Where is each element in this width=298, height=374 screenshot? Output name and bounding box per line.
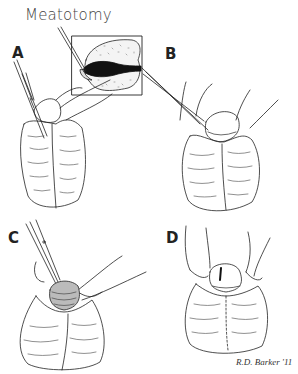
b-scissors-icon [142, 68, 208, 130]
panel-d-drawing [185, 226, 270, 353]
artist-signature: R.D. Barker '11 [236, 357, 292, 367]
illustration [0, 0, 298, 374]
c-scissors-icon [26, 220, 60, 284]
panel-c-drawing [20, 220, 146, 370]
panel-b-drawing [180, 82, 278, 211]
